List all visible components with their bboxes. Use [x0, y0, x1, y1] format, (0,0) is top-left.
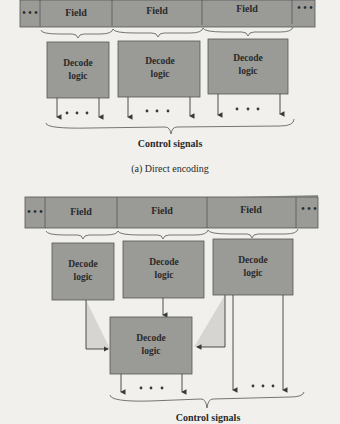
svg-text:Decode: Decode — [233, 53, 263, 63]
ellipsis-right: • • • — [301, 203, 317, 214]
caption-direct-encoding: (a) Direct encoding — [131, 163, 209, 175]
direct-encoding-diagram: • • • Field Field Field • • • Decode log… — [20, 0, 315, 175]
field-braces-a — [41, 27, 293, 38]
output-dots-b — [140, 385, 275, 390]
control-signals-label-a: Control signals — [138, 138, 203, 149]
encoding-diagram: • • • Field Field Field • • • Decode log… — [0, 0, 340, 424]
svg-text:logic: logic — [155, 270, 174, 280]
svg-text:logic: logic — [142, 346, 161, 356]
control-signals-label-b: Control signals — [176, 412, 241, 423]
instruction-register-b: • • • Field Field Field • • • — [25, 195, 318, 228]
ellipsis-left: • • • — [22, 7, 38, 18]
svg-text:Decode: Decode — [63, 58, 93, 68]
decoder-b-1: Decode logic — [52, 243, 114, 300]
decoder-a-3: Decode logic — [208, 39, 288, 94]
field-label: Field — [151, 205, 173, 216]
svg-text:Decode: Decode — [149, 257, 179, 267]
field-label: Field — [65, 7, 87, 18]
field-label: Field — [146, 5, 168, 16]
field-label: Field — [240, 204, 262, 215]
decoder-b-2: Decode logic — [123, 241, 204, 298]
svg-text:logic: logic — [244, 268, 263, 278]
output-dots-a — [66, 108, 260, 115]
svg-text:Decode: Decode — [238, 255, 268, 265]
field-label: Field — [70, 206, 92, 217]
shade-wedge-left — [86, 300, 110, 349]
ellipsis-right: • • • — [297, 2, 313, 13]
svg-text:logic: logic — [239, 66, 258, 76]
svg-text:Decode: Decode — [145, 56, 175, 66]
svg-text:logic: logic — [74, 272, 93, 282]
svg-text:Decode: Decode — [68, 259, 98, 269]
output-brace-a — [46, 119, 294, 134]
svg-text:logic: logic — [69, 71, 88, 81]
instruction-register-a: • • • Field Field Field • • • — [20, 0, 315, 27]
decoder-b-3: Decode logic — [213, 239, 293, 295]
decoder-a-2: Decode logic — [118, 41, 200, 97]
field-label: Field — [236, 3, 258, 14]
indirect-encoding-diagram: • • • Field Field Field • • • Decode log… — [25, 195, 318, 423]
decoder-a-1: Decode logic — [47, 42, 109, 98]
svg-text:Decode: Decode — [136, 333, 166, 343]
second-stage-decoder: Decode logic — [110, 317, 192, 374]
svg-text:logic: logic — [151, 69, 170, 79]
shade-wedge-right — [194, 295, 225, 347]
field-braces-b — [46, 229, 298, 239]
ellipsis-left: • • • — [27, 206, 43, 217]
output-brace-b — [110, 392, 304, 408]
